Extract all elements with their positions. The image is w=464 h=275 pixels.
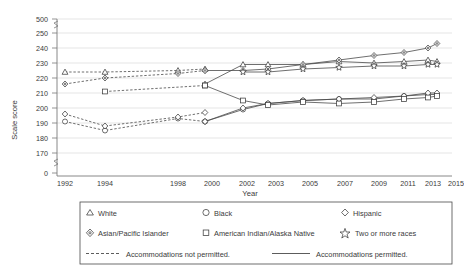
data-point-american-indian-alaska-native-2009 xyxy=(372,100,377,105)
y-tick-230: 230 xyxy=(36,59,48,68)
diamond-icon xyxy=(342,209,349,216)
legend-item-white: White xyxy=(87,209,117,218)
series-line-asian-pacific-islander-not-permitted xyxy=(65,71,205,85)
data-point-american-indian-alaska-native-2007 xyxy=(337,101,342,106)
star-icon xyxy=(340,228,350,238)
x-tick-2003: 2003 xyxy=(268,179,284,188)
series-layer xyxy=(62,41,440,134)
data-point-black-1992 xyxy=(63,119,68,124)
data-point-dot-asian-pacific-islander-2013 xyxy=(427,47,429,49)
series-white-not-permitted xyxy=(62,66,208,74)
data-point-american-indian-alaska-native-2003 xyxy=(266,103,271,108)
y-tick-500: 500 xyxy=(36,15,48,24)
y-tick-170: 170 xyxy=(36,149,48,158)
x-axis: 1992 1994 1998 2000 2002 2003 2005 2007 … xyxy=(57,176,464,198)
legend-style-accommodations-permitted: Accommodations permitted. xyxy=(272,250,408,259)
y-tick-210: 210 xyxy=(36,89,48,98)
legend-item-hispanic: Hispanic xyxy=(342,209,382,218)
x-tick-2007: 2007 xyxy=(337,179,353,188)
y-axis-title: Scale score xyxy=(10,100,19,140)
x-tick-2013: 2013 xyxy=(425,179,441,188)
legend-item-asian-pacific-islander: Asian/Pacific Islander xyxy=(86,229,169,238)
diamond-open-dot-icon xyxy=(89,232,91,234)
legend-item-black: Black xyxy=(203,209,232,218)
x-tick-2015: 2015 xyxy=(448,179,464,188)
x-tick-2011: 2011 xyxy=(400,179,415,188)
data-point-two-or-more-races-2007 xyxy=(336,64,342,70)
legend-label-american-indian-alaska-native: American Indian/Alaska Native xyxy=(214,229,315,238)
circle-icon xyxy=(203,209,209,215)
legend-item-two-or-more-races: Two or more races xyxy=(340,228,417,238)
data-point-american-indian-alaska-native-2015 xyxy=(435,94,440,99)
series-hispanic-permitted xyxy=(202,90,440,125)
data-point-dot-asian-pacific-islander-2000 xyxy=(204,70,206,72)
y-tick-240: 240 xyxy=(36,44,48,53)
x-tick-2009: 2009 xyxy=(371,179,387,188)
y-tick-220: 220 xyxy=(36,74,48,83)
x-tick-1998: 1998 xyxy=(170,179,186,188)
x-tick-1992: 1992 xyxy=(57,179,73,188)
data-point-dot-asian-pacific-islander-2015 xyxy=(436,43,438,45)
series-black-not-permitted xyxy=(63,116,208,133)
y-tick-250: 250 xyxy=(36,29,48,38)
series-white-permitted xyxy=(202,57,440,86)
legend-label-two-or-more-races: Two or more races xyxy=(355,229,417,238)
x-tick-2005: 2005 xyxy=(302,179,318,188)
gridlines xyxy=(57,19,452,153)
chart-figure: 500 250 240 230 220 210 200 190 180 170 … xyxy=(0,0,464,275)
series-american-indian-alaska-native-not-permitted xyxy=(103,83,208,94)
data-point-dot-asian-pacific-islander-1992 xyxy=(64,83,66,85)
y-tick-200: 200 xyxy=(36,104,48,113)
data-point-hispanic-1992 xyxy=(62,111,68,117)
data-point-dot-asian-pacific-islander-2011 xyxy=(403,52,405,54)
x-tick-2002: 2002 xyxy=(239,179,255,188)
data-point-american-indian-alaska-native-2011 xyxy=(402,97,407,102)
triangle-icon xyxy=(87,210,94,216)
y-axis: 500 250 240 230 220 210 200 190 180 170 … xyxy=(10,15,58,178)
x-tick-2000: 2000 xyxy=(204,179,220,188)
data-point-dot-asian-pacific-islander-2007 xyxy=(338,59,340,61)
data-point-american-indian-alaska-native-2000 xyxy=(203,83,208,88)
legend-label-accommodations-not-permitted: Accommodations not permitted. xyxy=(126,250,230,259)
data-point-american-indian-alaska-native-1994 xyxy=(103,89,108,94)
x-axis-title: Year xyxy=(242,189,258,198)
series-line-american-indian-alaska-native-not-permitted xyxy=(105,86,205,92)
data-point-hispanic-1994 xyxy=(102,123,108,129)
legend-label-white: White xyxy=(98,209,117,218)
data-point-american-indian-alaska-native-2005 xyxy=(301,100,306,105)
y-tick-180: 180 xyxy=(36,134,48,143)
series-asian-pacific-islander-not-permitted xyxy=(62,68,208,88)
legend-label-accommodations-permitted: Accommodations permitted. xyxy=(316,250,408,259)
legend-label-asian-pacific-islander: Asian/Pacific Islander xyxy=(98,229,169,238)
data-point-dot-asian-pacific-islander-1994 xyxy=(104,77,106,79)
data-point-american-indian-alaska-native-2002 xyxy=(241,98,246,103)
x-tick-1994: 1994 xyxy=(97,179,113,188)
data-point-american-indian-alaska-native-2013 xyxy=(426,95,431,100)
square-icon xyxy=(203,230,209,236)
legend-style-accommodations-not-permitted: Accommodations not permitted. xyxy=(86,250,230,259)
legend-label-black: Black xyxy=(214,209,232,218)
legend-item-american-indian-alaska-native: American Indian/Alaska Native xyxy=(203,229,314,238)
legend-label-hispanic: Hispanic xyxy=(353,209,382,218)
data-point-dot-asian-pacific-islander-2009 xyxy=(373,55,375,57)
y-tick-0: 0 xyxy=(44,169,48,178)
data-point-dot-asian-pacific-islander-1998 xyxy=(177,73,179,75)
legend: White Black Hispanic Asian/Pacific Islan… xyxy=(80,202,452,264)
series-line-white-not-permitted xyxy=(65,69,205,72)
data-point-hispanic-2000 xyxy=(202,110,208,116)
scale-score-line-chart: 500 250 240 230 220 210 200 190 180 170 … xyxy=(0,0,464,275)
y-tick-190: 190 xyxy=(36,119,48,128)
series-line-hispanic-not-permitted xyxy=(65,113,205,127)
